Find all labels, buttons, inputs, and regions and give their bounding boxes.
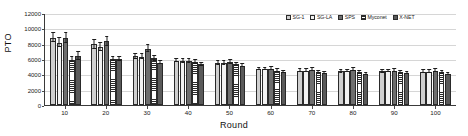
bar-sg-la-70[interactable] [303, 14, 309, 105]
bar-myconet-100[interactable] [439, 14, 445, 105]
bar-myconet-10[interactable] [69, 14, 75, 105]
bar-sg-1-10[interactable] [50, 14, 56, 105]
bar-rect [63, 38, 69, 105]
error-bar-cap-lower [222, 64, 226, 65]
bar-myconet-20[interactable] [110, 14, 116, 105]
x-tick: 90 [374, 106, 415, 118]
bar-sg-la-100[interactable] [426, 14, 432, 105]
error-bar-cap-lower [427, 72, 431, 73]
bar-sps-60[interactable] [268, 14, 274, 105]
bar-rect [186, 61, 192, 105]
error-bar-cap-upper [228, 59, 232, 60]
bar-sg-1-20[interactable] [91, 14, 97, 105]
bar-sps-90[interactable] [392, 14, 398, 105]
bar-sg-la-10[interactable] [57, 14, 63, 105]
bar-sps-20[interactable] [104, 14, 110, 105]
bar-sg-la-60[interactable] [262, 14, 268, 105]
error-bar-cap-lower [351, 70, 355, 71]
error-bar-cap-upper [193, 59, 197, 60]
bar-sg-la-50[interactable] [221, 14, 227, 105]
error-bar-cap-lower [76, 59, 80, 60]
error-bar-cap-upper [76, 51, 80, 52]
bar-sps-50[interactable] [227, 14, 233, 105]
error-bar-cap-lower [263, 69, 267, 70]
bar-rect [344, 71, 350, 105]
error-bar-cap-lower [434, 71, 438, 72]
bar-myconet-80[interactable] [357, 14, 363, 105]
bar-myconet-30[interactable] [151, 14, 157, 105]
bar-rect [398, 72, 404, 105]
bar-sg-1-40[interactable] [174, 14, 180, 105]
bar-x-net-70[interactable] [322, 14, 328, 105]
error-bar-cap-lower [70, 61, 74, 62]
error-bar-cap-lower [323, 73, 327, 74]
error-bar-cap-upper [216, 60, 220, 61]
x-tick: 80 [332, 106, 373, 118]
bar-x-net-30[interactable] [157, 14, 163, 105]
error-bar-cap-lower [282, 72, 286, 73]
bar-sg-1-70[interactable] [297, 14, 303, 105]
error-bar-cap-lower [345, 71, 349, 72]
bar-sg-la-20[interactable] [98, 14, 104, 105]
bar-rect [116, 59, 122, 105]
y-tick-label: 10000 [24, 26, 41, 32]
bar-x-net-80[interactable] [363, 14, 369, 105]
bar-rect [50, 38, 56, 105]
bar-x-net-40[interactable] [198, 14, 204, 105]
error-bar-cap-lower [317, 72, 321, 73]
error-bar-cap-upper [446, 72, 450, 73]
error-bar-cap-upper [427, 69, 431, 70]
bar-sg-1-50[interactable] [215, 14, 221, 105]
error-bar-cap-lower [241, 66, 245, 67]
bar-sps-10[interactable] [63, 14, 69, 105]
x-axis-title: Round [0, 121, 468, 130]
bar-sg-1-90[interactable] [379, 14, 385, 105]
error-bar-cap-upper [187, 58, 191, 59]
bar-rect [379, 71, 385, 105]
bar-x-net-50[interactable] [240, 14, 246, 105]
bar-rect [297, 71, 303, 106]
bar-sg-la-30[interactable] [139, 14, 145, 105]
bar-sg-1-80[interactable] [338, 14, 344, 105]
bar-sps-80[interactable] [350, 14, 356, 105]
error-bar-cap-upper [263, 67, 267, 68]
bar-myconet-60[interactable] [274, 14, 280, 105]
chart-container: SG-1SG-LASPSMyconetX-NET PTO Round 02000… [0, 0, 468, 136]
bar-sps-30[interactable] [145, 14, 151, 105]
bar-sps-40[interactable] [186, 14, 192, 105]
bar-sps-100[interactable] [433, 14, 439, 105]
bar-x-net-100[interactable] [445, 14, 451, 105]
bar-sg-la-80[interactable] [344, 14, 350, 105]
bar-myconet-90[interactable] [398, 14, 404, 105]
bar-sg-1-100[interactable] [420, 14, 426, 105]
bar-sg-1-60[interactable] [256, 14, 262, 105]
bar-myconet-50[interactable] [233, 14, 239, 105]
error-bar-cap-upper [51, 32, 55, 33]
y-tick-label: 6000 [28, 57, 41, 63]
y-tick-label: 12000 [24, 11, 41, 17]
bar-sg-la-40[interactable] [180, 14, 186, 105]
error-bar-cap-lower [364, 74, 368, 75]
error-bar-cap-lower [310, 70, 314, 71]
error-bar-cap-upper [317, 70, 321, 71]
bar-x-net-20[interactable] [116, 14, 122, 105]
bar-sg-la-90[interactable] [385, 14, 391, 105]
bar-rect [338, 71, 344, 105]
bar-x-net-10[interactable] [75, 14, 81, 105]
error-bar-cap-upper [269, 66, 273, 67]
bar-x-net-60[interactable] [281, 14, 287, 105]
error-bar-cap-lower [92, 48, 96, 49]
bar-myconet-70[interactable] [316, 14, 322, 105]
x-tick: 40 [168, 106, 209, 118]
bar-rect [198, 64, 204, 105]
error-bar-cap-upper [111, 56, 115, 57]
bar-groups [45, 14, 456, 105]
bar-sg-1-30[interactable] [133, 14, 139, 105]
bar-group [292, 14, 333, 105]
bar-sps-70[interactable] [309, 14, 315, 105]
bar-group [209, 14, 250, 105]
x-tick-label: 70 [291, 110, 332, 116]
bar-x-net-90[interactable] [404, 14, 410, 105]
bar-rect [110, 59, 116, 105]
bar-myconet-40[interactable] [192, 14, 198, 105]
